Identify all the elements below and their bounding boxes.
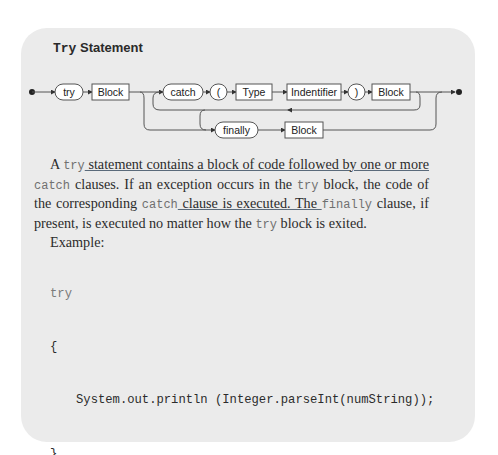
- syntax-diagram: try Block catch ( Type Indentifier ) Blo…: [0, 0, 498, 160]
- node-block-1: Block: [92, 84, 129, 100]
- node-try: try: [55, 84, 83, 100]
- svg-text:finally: finally: [223, 124, 251, 136]
- node-block-3: Block: [285, 122, 323, 138]
- svg-text:try: try: [63, 86, 75, 98]
- node-block-2: Block: [372, 84, 410, 100]
- node-type: Type: [236, 84, 272, 100]
- svg-text:): ): [355, 86, 359, 98]
- code-line: {: [50, 339, 434, 357]
- code-line: }: [50, 446, 434, 455]
- node-catch: catch: [163, 84, 203, 100]
- code-line: try: [50, 286, 434, 304]
- code-example: try { System.out.println (Integer.parseI…: [50, 250, 434, 455]
- description-text: A try statement contains a block of code…: [34, 156, 429, 252]
- description-paragraph: A try statement contains a block of code…: [34, 156, 429, 234]
- svg-text:Block: Block: [291, 124, 317, 136]
- svg-text:Type: Type: [243, 86, 266, 98]
- node-finally: finally: [215, 122, 258, 138]
- svg-text:catch: catch: [170, 86, 195, 98]
- node-rparen: ): [348, 84, 365, 100]
- code-line: System.out.println (Integer.parseInt(num…: [50, 392, 434, 410]
- node-identifier: Indentifier: [287, 84, 341, 100]
- end-dot-icon: [456, 89, 462, 95]
- svg-text:Block: Block: [378, 86, 404, 98]
- svg-text:Indentifier: Indentifier: [291, 86, 338, 98]
- node-lparen: (: [210, 84, 227, 100]
- svg-text:Block: Block: [98, 86, 124, 98]
- svg-text:(: (: [217, 86, 221, 98]
